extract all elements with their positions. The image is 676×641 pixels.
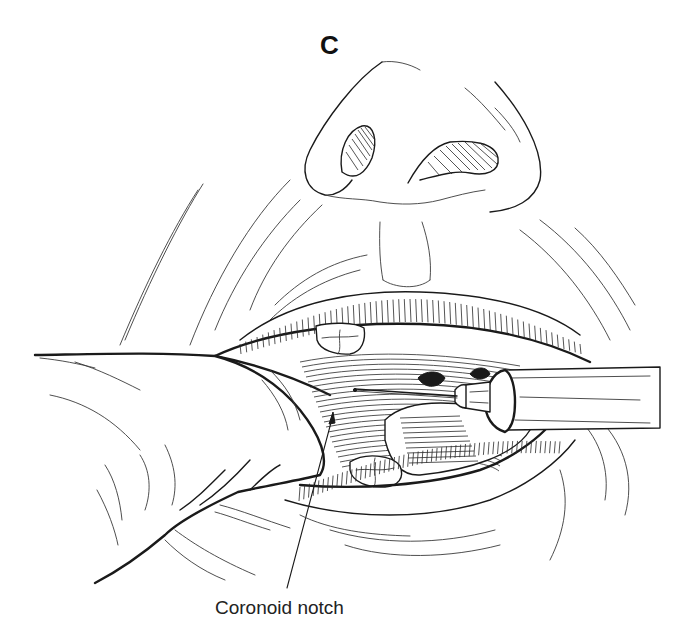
- hatch-stroke: [376, 301, 377, 323]
- hatch-stroke: [559, 441, 560, 453]
- hatch-stroke: [337, 474, 338, 488]
- hatch-stroke: [512, 318, 513, 336]
- hatch-stroke: [495, 312, 496, 331]
- nose: [305, 61, 541, 286]
- hatch-stroke: [323, 479, 324, 493]
- hatch-stroke: [546, 330, 547, 344]
- hatch-stroke: [314, 316, 315, 334]
- hatch-stroke: [399, 299, 400, 322]
- hatch-stroke: [501, 314, 502, 333]
- hatch-stroke: [478, 308, 479, 329]
- retracting-finger: [35, 354, 324, 583]
- hatch-stroke: [274, 330, 275, 344]
- duct-opening: [418, 372, 445, 386]
- hatch-stroke: [552, 332, 553, 345]
- hatch-stroke: [444, 301, 445, 323]
- anatomical-illustration: [0, 0, 676, 641]
- hatch-stroke: [387, 300, 388, 323]
- hatch-stroke: [291, 324, 292, 340]
- hatch-stroke: [299, 487, 300, 501]
- hatch-stroke: [427, 300, 428, 323]
- hatch-stroke: [346, 471, 347, 485]
- hatch-stroke: [421, 299, 422, 322]
- hatch-stroke: [450, 302, 451, 324]
- hatch-stroke: [342, 472, 343, 486]
- upper-lip: [215, 292, 590, 362]
- hatch-stroke: [472, 306, 473, 327]
- hatch-stroke: [257, 337, 258, 349]
- hatch-stroke: [410, 299, 411, 322]
- hatch-stroke: [554, 441, 555, 453]
- hatch-stroke: [506, 316, 507, 334]
- right-nostril: [408, 141, 498, 183]
- hatch-stroke: [563, 337, 564, 349]
- hatch-stroke: [318, 480, 319, 494]
- hatch-stroke: [467, 305, 468, 326]
- duct-opening: [470, 368, 490, 379]
- hatch-stroke: [574, 342, 575, 353]
- hatch-stroke: [550, 441, 551, 453]
- hatch-stroke: [382, 301, 383, 324]
- left-nostril: [341, 126, 375, 176]
- hatch-stroke: [280, 328, 281, 343]
- hatch-stroke: [302, 320, 303, 337]
- hatch-stroke: [268, 332, 269, 345]
- hatch-stroke: [404, 299, 405, 322]
- hatch-stroke: [529, 324, 530, 340]
- chin-contour-lines: [300, 515, 500, 556]
- hatch-stroke: [308, 318, 309, 336]
- hatch-stroke: [263, 335, 264, 348]
- hatch-stroke: [285, 326, 286, 341]
- hatch-stroke: [540, 441, 541, 453]
- hatch-stroke: [526, 441, 527, 453]
- needle: [353, 388, 457, 398]
- hatch-stroke: [489, 311, 490, 331]
- hatch-stroke: [518, 320, 519, 337]
- hatch-stroke: [365, 303, 366, 325]
- hatch-stroke: [523, 322, 524, 339]
- hatch-stroke: [535, 441, 536, 453]
- hatch-stroke: [359, 304, 360, 326]
- hatch-stroke: [557, 335, 558, 348]
- hatch-stroke: [461, 304, 462, 326]
- hatch-stroke: [327, 477, 328, 491]
- hatch-stroke: [569, 339, 570, 350]
- hatch-stroke: [433, 300, 434, 323]
- hatch-stroke: [353, 305, 354, 326]
- hatch-stroke: [521, 441, 522, 453]
- hatch-stroke: [370, 302, 371, 324]
- upper-tooth: [316, 323, 364, 354]
- hatch-stroke: [297, 322, 298, 339]
- hatch-stroke: [304, 485, 305, 499]
- hatch-stroke: [416, 299, 417, 322]
- hatch-stroke: [484, 309, 485, 329]
- hatch-stroke: [540, 328, 541, 343]
- hatch-stroke: [455, 303, 456, 325]
- hatch-stroke: [393, 300, 394, 323]
- hatch-stroke: [580, 344, 581, 354]
- hatch-stroke: [545, 441, 546, 453]
- hatch-stroke: [535, 326, 536, 341]
- hatch-stroke: [438, 301, 439, 324]
